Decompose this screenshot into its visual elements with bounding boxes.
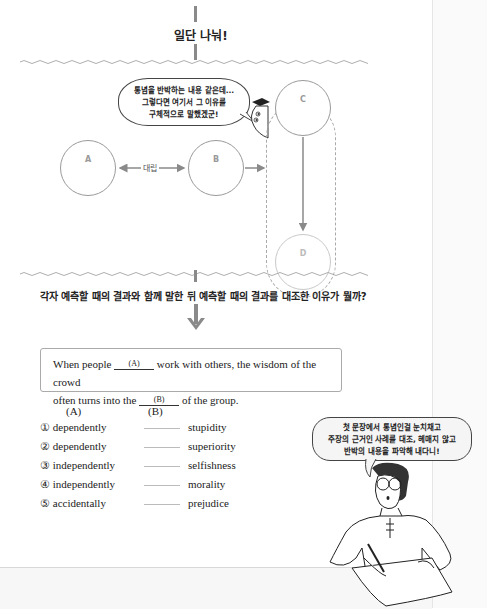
option-connector-line: [144, 485, 180, 486]
option-connector-line: [144, 466, 180, 467]
summary-sentence-box: When people (A) work with others, the wi…: [40, 348, 342, 392]
option-a-value: independently: [53, 459, 115, 471]
teacher-character-illustration: [322, 462, 472, 608]
options-header-a: (A): [66, 405, 81, 417]
option-a-value: dependently: [53, 421, 107, 433]
option-number: ③: [40, 459, 50, 471]
options-header-b: (B): [148, 405, 163, 417]
down-arrow-icon: [186, 304, 206, 334]
option-number: ⑤: [40, 497, 50, 509]
speech-bubble-tip: 첫 문장에서 통념인걸 눈치채고 주장의 근거인 사례를 대조, 헤매지 않고 …: [312, 417, 472, 461]
option-b-value: stupidity: [188, 421, 227, 433]
summary-text: When people: [53, 358, 111, 370]
guiding-question: 각자 예측할 때의 결과와 함께 말한 뒤 예측할 때의 결과를 대조한 이유가…: [40, 288, 440, 303]
option-number: ④: [40, 478, 50, 490]
option-b-value: morality: [188, 478, 225, 490]
option-b-value: selfishness: [188, 459, 236, 471]
option-a-value: dependently: [53, 440, 107, 452]
connector-bar-lower: [194, 270, 197, 282]
option-number: ②: [40, 440, 50, 452]
option-connector-line: [144, 428, 180, 429]
option-connector-line: [144, 504, 180, 505]
relation-label-opposition: 대립: [141, 162, 159, 173]
option-b-value: superiority: [188, 440, 236, 452]
option-b-value: prejudice: [188, 497, 229, 509]
bubble-line: 주장의 근거인 사례를 대조, 헤매지 않고: [313, 434, 471, 446]
blank-a: (A): [114, 359, 154, 370]
option-connector-line: [144, 447, 180, 448]
option-a-value: accidentally: [53, 497, 106, 509]
summary-text: of the group.: [182, 394, 239, 406]
option-a-value: independently: [53, 478, 115, 490]
option-number: ①: [40, 421, 50, 433]
bubble-line: 반박의 내용을 파악해 내다니!: [313, 446, 471, 458]
bubble-line: 첫 문장에서 통념인걸 눈치채고: [313, 422, 471, 434]
